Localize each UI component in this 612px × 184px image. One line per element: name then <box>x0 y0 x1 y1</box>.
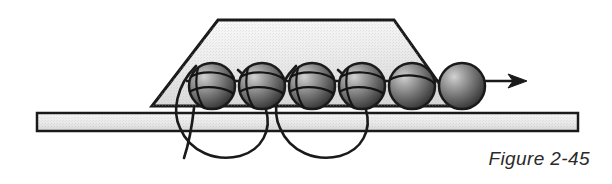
bead-3 <box>289 63 337 109</box>
bead-6 <box>439 63 485 109</box>
horizontal-rail-group <box>37 113 578 131</box>
figure-container: Figure 2-45 <box>0 0 612 184</box>
bead-5 <box>389 63 435 109</box>
horizontal-rail-texture <box>39 115 577 130</box>
bead-1 <box>189 63 237 109</box>
bead-4 <box>339 63 387 109</box>
bead-2 <box>239 63 287 109</box>
figure-caption: Figure 2-45 <box>488 148 590 170</box>
